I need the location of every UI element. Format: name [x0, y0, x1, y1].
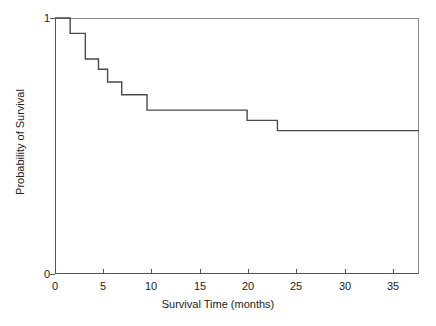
- x-axis-title: Survival Time (months): [0, 298, 436, 310]
- y-tick-label-1: 1: [30, 13, 50, 24]
- x-tick-label-15: 15: [185, 281, 215, 292]
- x-tick-label-20: 20: [233, 281, 263, 292]
- x-tick-mark-20: [248, 269, 249, 274]
- survival-chart: 1 0 0 5 10 15 20 25 30 35 Survival Time …: [0, 0, 436, 326]
- y-axis-title: Probability of Survival: [14, 42, 26, 242]
- x-tick-mark-0: [55, 269, 56, 274]
- x-tick-mark-30: [345, 269, 346, 274]
- x-tick-label-25: 25: [281, 281, 311, 292]
- x-tick-label-35: 35: [378, 281, 408, 292]
- x-tick-mark-5: [103, 269, 104, 274]
- x-tick-label-0: 0: [40, 281, 70, 292]
- x-tick-mark-25: [296, 269, 297, 274]
- x-tick-mark-15: [200, 269, 201, 274]
- x-tick-mark-10: [151, 269, 152, 274]
- plot-area-frame: [55, 18, 419, 274]
- y-tick-label-0: 0: [30, 269, 50, 280]
- x-tick-label-10: 10: [136, 281, 166, 292]
- y-tick-mark-0: [50, 274, 55, 275]
- x-tick-label-5: 5: [88, 281, 118, 292]
- y-tick-mark-1: [50, 18, 55, 19]
- x-tick-mark-35: [393, 269, 394, 274]
- x-tick-label-30: 30: [330, 281, 360, 292]
